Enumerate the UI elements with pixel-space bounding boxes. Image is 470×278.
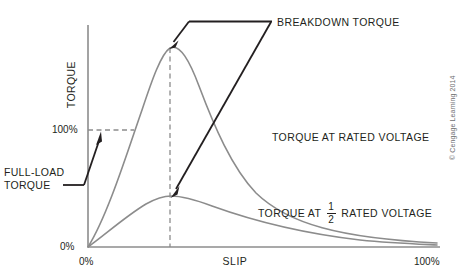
half-rated-voltage-curve-label: TORQUE AT 1 2 RATED VOLTAGE: [258, 202, 432, 226]
breakdown-torque-label: BREAKDOWN TORQUE: [277, 16, 400, 29]
one-half-fraction: 1 2: [326, 202, 336, 226]
fraction-denominator: 2: [326, 215, 336, 226]
full-load-torque-label: FULL-LOAD TORQUE: [4, 166, 64, 192]
y-axis-title: TORQUE: [65, 49, 78, 121]
x-axis-tick-100: 100%: [414, 256, 440, 267]
fraction-numerator: 1: [326, 202, 336, 213]
half-rated-prefix: TORQUE AT: [258, 207, 321, 220]
y-axis-tick-0: 0%: [60, 241, 74, 252]
x-axis-tick-0: 0%: [79, 256, 93, 267]
copyright-credit: © Cengage Learning 2014: [449, 75, 456, 160]
full-load-arrowhead: [96, 132, 102, 146]
torque-slip-figure: TORQUE SLIP 100% 0% 0% 100% BREAKDOWN TO…: [0, 0, 470, 278]
x-axis-title: SLIP: [205, 255, 265, 268]
breakdown-torque-leader: [169, 22, 272, 199]
rated-voltage-curve-label: TORQUE AT RATED VOLTAGE: [272, 131, 429, 144]
full-load-torque-label-line2: TORQUE: [4, 179, 64, 192]
full-load-torque-label-line1: FULL-LOAD: [4, 166, 64, 179]
full-load-torque-leader: [63, 132, 102, 186]
y-axis-tick-100: 100%: [52, 124, 78, 135]
half-rated-suffix: RATED VOLTAGE: [341, 207, 432, 220]
